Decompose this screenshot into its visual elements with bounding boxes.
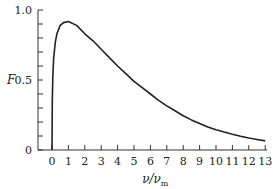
x-tick-label: 12	[242, 155, 256, 168]
y-axis-label: F	[6, 73, 16, 87]
x-axis-label: ν/νm	[142, 172, 169, 188]
x-tick-label: 8	[180, 155, 187, 168]
x-tick-label: 2	[81, 155, 88, 168]
x-tick-label: 4	[114, 155, 121, 168]
x-tick-label: 1	[65, 155, 72, 168]
x-tick-label: 6	[147, 155, 154, 168]
y-tick-label: 1.0	[15, 4, 33, 17]
x-tick-label: 9	[196, 155, 203, 168]
x-tick-label: 7	[163, 155, 170, 168]
y-tick-label: 0.5	[15, 74, 33, 87]
data-curve	[52, 22, 265, 151]
x-tick-label: 11	[225, 155, 239, 168]
x-tick-label: 0	[49, 155, 56, 168]
axes	[38, 10, 267, 150]
x-tick-label: 13	[258, 155, 272, 168]
x-tick-label: 10	[209, 155, 223, 168]
y-tick-label: 0	[25, 144, 32, 157]
x-tick-label: 5	[131, 155, 138, 168]
synchrotron-function-chart: 00.51.0012345678910111213Fν/νm	[0, 0, 274, 189]
axis-labels: 00.51.0012345678910111213Fν/νm	[6, 4, 272, 188]
x-tick-label: 3	[98, 155, 105, 168]
